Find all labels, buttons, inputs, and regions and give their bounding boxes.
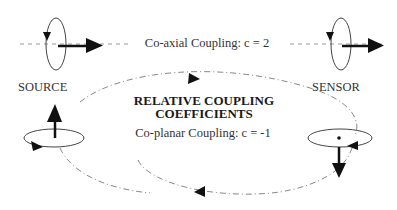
sensor-label: SENSOR — [312, 80, 361, 94]
coaxial-label: Co-axial Coupling: c = 2 — [145, 36, 269, 50]
diagram-title-line2: COEFFICIENTS — [155, 106, 253, 121]
loop-arrow-bottom-icon — [194, 186, 205, 197]
source-label: SOURCE — [18, 80, 68, 94]
loop-arrow-top-icon — [188, 73, 200, 84]
coplanar-label: Co-planar Coupling: c = -1 — [135, 126, 271, 140]
sensor-coil-horizontal-icon — [308, 129, 372, 178]
coupling-diagram: Co-axial Coupling: c = 2 SOURCE SENSOR R… — [0, 0, 397, 210]
source-coil-horizontal-icon — [24, 104, 84, 151]
